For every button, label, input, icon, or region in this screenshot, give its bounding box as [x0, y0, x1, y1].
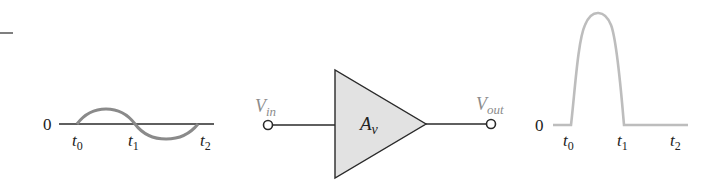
vin-label: Vin [255, 96, 276, 119]
input-tick-t2: t2 [200, 131, 211, 153]
input-waveform-plot: 0 t0 t1 t2 [43, 109, 214, 153]
vout-terminal [487, 120, 496, 129]
input-tick-t0: t0 [72, 131, 83, 153]
input-zero-label: 0 [43, 115, 52, 134]
output-pulse-wave [553, 13, 688, 125]
amplifier-triangle [335, 70, 426, 178]
vin-terminal [264, 121, 273, 130]
vout-label: Vout [476, 94, 504, 117]
output-tick-t1: t1 [617, 131, 628, 153]
output-waveform-plot: 0 t0 t1 t2 [535, 13, 688, 153]
amplifier-block: Vin Av Vout [255, 70, 504, 178]
output-tick-t0: t0 [563, 131, 574, 153]
output-tick-t2: t2 [670, 131, 681, 153]
output-zero-label: 0 [535, 116, 544, 135]
amplifier-diagram: 0 t0 t1 t2 Vin Av Vout 0 t0 t1 t2 [0, 0, 725, 181]
input-tick-t1: t1 [128, 131, 139, 153]
